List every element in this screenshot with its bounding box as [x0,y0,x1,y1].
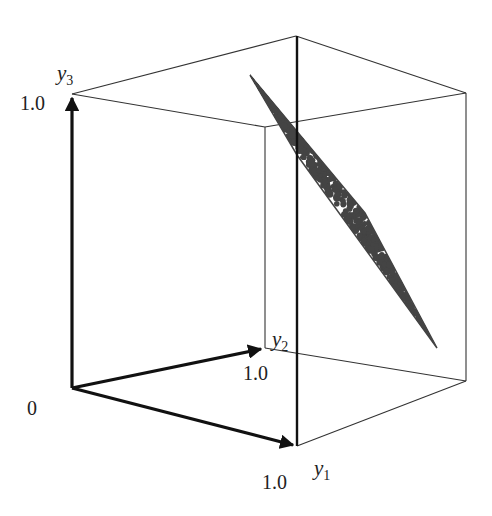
scatter-point [317,169,322,174]
edge-top-front-right [265,93,466,127]
scatter-points [248,73,441,351]
edge-top-left-front [72,94,265,127]
scatter-point [347,197,353,203]
scatter-point [307,159,315,167]
scatter-point [361,238,367,244]
y1-axis-label: y1 [312,456,330,483]
scatter-point [301,154,307,160]
cube-diagram: 1.0 y3 y2 1.0 y1 1.0 0 [0,0,492,516]
edge-bottom-back [265,348,466,381]
scatter-point [349,203,354,208]
scatter-point [341,212,347,218]
axis-y2-arrow [72,349,261,388]
scatter-point [270,102,277,109]
scatter-point [336,192,342,198]
origin-label: 0 [27,397,37,419]
y2-axis-label: y2 [270,327,288,354]
scatter-point [298,148,304,154]
edge-top-back-right [296,36,466,93]
scatter-point [362,212,368,218]
scatter-point [383,268,391,276]
scatter-point [322,179,328,185]
scatter-point [353,208,359,214]
scatter-point [288,131,296,139]
scatter-point [334,201,340,207]
scatter-plane [248,73,441,351]
scatter-point [367,246,375,254]
scatter-point [278,112,285,119]
y1-tick-label: 1.0 [262,471,287,493]
y3-tick-label: 1.0 [20,92,45,114]
scatter-point [365,226,371,232]
scatter-point [336,183,343,190]
edge-top-back-left [72,36,296,94]
y2-tick-label: 1.0 [243,362,268,384]
scatter-point [325,187,330,192]
scatter-point [381,262,387,268]
scatter-point [347,212,353,218]
scatter-point [316,162,321,167]
scatter-point [371,238,376,243]
scatter-point [307,155,312,160]
scatter-point [378,254,384,260]
scatter-point [328,177,333,182]
scatter-point [357,233,363,239]
y3-axis-label: y3 [55,61,73,88]
scatter-point [340,198,346,204]
scatter-point [290,140,295,145]
scatter-point [404,290,411,297]
scatter-point [353,217,358,222]
edge-bottom-front [297,381,466,446]
axis-y1-arrow [72,388,293,445]
scatter-point [398,282,402,286]
